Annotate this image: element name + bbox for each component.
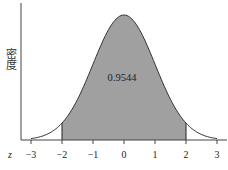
- x-ticks: −3−2−10123: [26, 140, 220, 160]
- x-tick-label: 2: [184, 149, 189, 160]
- x-tick-label: −2: [57, 149, 68, 160]
- x-tick-label: 1: [153, 149, 158, 160]
- normal-density-chart: −3−2−10123 z 0.9544: [0, 0, 228, 170]
- area-annotation: 0.9544: [108, 72, 138, 83]
- x-tick-label: −3: [26, 149, 37, 160]
- x-axis-label: z: [7, 149, 12, 160]
- x-tick-label: −1: [88, 149, 99, 160]
- x-tick-label: 3: [215, 149, 220, 160]
- x-tick-label: 0: [122, 149, 127, 160]
- y-axis-label: 密度: [2, 48, 18, 70]
